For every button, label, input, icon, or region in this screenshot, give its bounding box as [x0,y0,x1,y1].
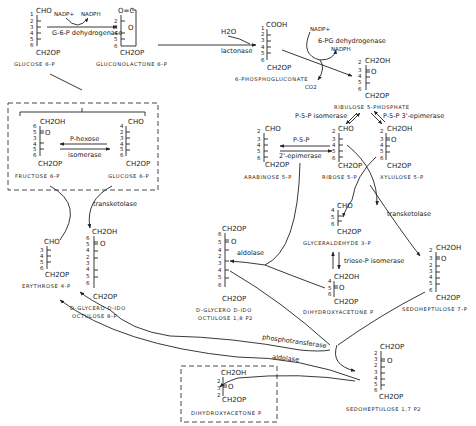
arrow-fructose-to-erythrose [50,186,70,240]
svg-text:CH2OP: CH2OP [222,295,246,303]
svg-text:O: O [128,24,134,32]
svg-text:2: 2 [332,128,336,134]
svg-text:CH2OP: CH2OP [365,92,389,100]
svg-text:P-hexose: P-hexose [70,135,99,143]
svg-text:3: 3 [261,37,265,43]
svg-text:CH2OP: CH2OP [334,298,358,306]
svg-text:O: O [371,68,377,76]
svg-text:6: 6 [374,387,378,393]
svg-text:6: 6 [328,291,332,297]
compound-dihydroxyacetone-p-box: CH2OH O 232 CH2OP DIHYDROXYACETONE P [191,369,262,416]
svg-text:4: 4 [86,247,90,253]
svg-text:5: 5 [218,274,222,280]
svg-text:2: 2 [257,128,261,134]
svg-text:CO2: CO2 [305,84,317,90]
svg-text:2: 2 [217,378,221,384]
svg-text:ERYTHROSE 4-P: ERYTHROSE 4-P [22,283,71,289]
svg-text:1: 1 [30,11,34,17]
svg-text:CH2OP: CH2OP [387,162,411,170]
svg-text:CH2OH: CH2OH [387,125,412,133]
svg-text:3: 3 [429,255,433,261]
svg-text:2: 2 [217,392,221,398]
svg-text:DIHYDROXYACETONE P: DIHYDROXYACETONE P [303,309,374,315]
svg-text:FRUCTOSE 6-P: FRUCTOSE 6-P [15,173,60,179]
svg-text:aldolase: aldolase [272,353,300,364]
svg-text:P-5-P isomerase: P-5-P isomerase [295,112,347,120]
svg-text:6: 6 [30,42,34,48]
svg-text:2: 2 [380,128,384,134]
svg-text:RIBOSE 5-P: RIBOSE 5-P [322,174,357,180]
svg-text:5: 5 [261,50,265,56]
svg-text:CHO: CHO [44,238,60,246]
svg-text:4: 4 [218,267,222,273]
svg-text:6: 6 [429,287,433,293]
svg-text:COOH: COOH [266,21,287,29]
svg-text:GLUCOSE 6-P: GLUCOSE 6-P [14,61,55,67]
svg-text:5: 5 [114,36,118,42]
svg-text:CH2OP: CH2OP [265,161,289,169]
pathway-diagram: CHO 123 456 CH2OP GLUCOSE 6-P NADP+ NADP… [0,0,476,426]
svg-text:P-5-P 3'-epimerase: P-5-P 3'-epimerase [383,112,444,120]
svg-text:3: 3 [217,385,221,391]
svg-text:CH2OH: CH2OH [365,57,390,65]
svg-text:GLUCOSE 6-P: GLUCOSE 6-P [108,173,149,179]
svg-text:phosphotransferase: phosphotransferase [262,333,327,350]
svg-text:5: 5 [429,280,433,286]
svg-text:transketolase: transketolase [93,200,137,208]
svg-text:NADP+: NADP+ [310,26,330,32]
compound-sedoheptulose-1-7-p2: CH2OP O 232 3456 CH2OP SEDOHEPTULOSE 1,7… [346,343,421,412]
compound-fructose-6-p: CH2OH O 653 456 CH2OP FRUCTOSE 6-P [15,118,65,179]
svg-text:O=C: O=C [118,7,134,15]
svg-text:CH2OH: CH2OH [40,118,65,126]
svg-text:6-PG dehydrogenase: 6-PG dehydrogenase [318,37,386,45]
svg-text:5: 5 [331,214,335,220]
compound-ribulose-5-phosphate: CH2OH O 234 56 CH2OP RIBULOSE 5-PHOSPHAT… [334,57,410,110]
svg-text:4: 4 [86,266,90,272]
svg-text:GLUCONOLACTONE 6-P: GLUCONOLACTONE 6-P [96,61,167,67]
svg-text:CH2OP: CH2OP [222,396,246,404]
svg-text:GLYCERALDEHYDE 3-P: GLYCERALDEHYDE 3-P [303,240,371,246]
svg-text:6: 6 [332,155,336,161]
svg-text:CH2OH: CH2OH [334,273,359,281]
svg-text:CH2OP: CH2OP [120,49,144,57]
compound-gluconolactone-6-p: O=C O 23 456 CH2OP GLUCONOLACTONE 6-P [96,7,167,67]
svg-text:5: 5 [380,148,384,154]
svg-text:CH2OH: CH2OH [436,244,461,252]
svg-text:P-5-P: P-5-P [293,136,310,144]
svg-text:O: O [231,238,237,246]
compound-octulose-8-p: CH2OH O 654 234 56 CH2OP D-GLYCERO D-IDO… [70,228,126,319]
svg-text:2: 2 [358,59,362,65]
arrow-nadph-1 [66,18,88,25]
svg-text:CH2OP: CH2OP [436,294,460,302]
svg-text:5: 5 [86,273,90,279]
arrow-h2o [228,36,250,44]
svg-text:6: 6 [218,231,222,237]
svg-text:O: O [100,240,106,248]
svg-text:lactonase: lactonase [221,47,252,55]
svg-text:CH2OP: CH2OP [337,228,361,236]
svg-text:O: O [228,383,234,391]
svg-text:CH2OP: CH2OP [338,162,362,170]
svg-text:6: 6 [120,152,124,158]
svg-text:CHO: CHO [128,118,144,126]
svg-text:NADPH: NADPH [331,46,351,52]
svg-text:6: 6 [114,43,118,49]
arrow-transketolase-right [370,185,420,256]
svg-text:O: O [45,129,51,137]
svg-text:O: O [387,357,393,365]
svg-text:6: 6 [257,155,261,161]
svg-text:5: 5 [358,79,362,85]
svg-text:SEDOHEPTULOSE 1,7 P2: SEDOHEPTULOSE 1,7 P2 [346,406,421,412]
svg-text:4: 4 [331,207,335,213]
svg-text:O: O [441,255,447,263]
svg-text:CH2OP: CH2OP [126,160,150,168]
svg-text:NADP+: NADP+ [54,11,74,17]
svg-text:OCTULOSE 8-P: OCTULOSE 8-P [72,313,117,319]
svg-text:transketolase: transketolase [387,210,431,218]
svg-text:SEDOHEPTULOSE 7-P: SEDOHEPTULOSE 7-P [402,306,467,312]
arrow-6pgdh [282,50,352,76]
compound-octulose-1-8-p2: CH2OP O 654 234 56 CH2OP D-GLYCERO D-IDO… [196,225,253,321]
compound-xylulose-5-p: CH2OH O 234 56 CH2OP XYLULOSE 5-P [380,125,424,180]
svg-text:CH2OP: CH2OP [267,64,291,72]
link-glucose-to-box [50,74,82,90]
